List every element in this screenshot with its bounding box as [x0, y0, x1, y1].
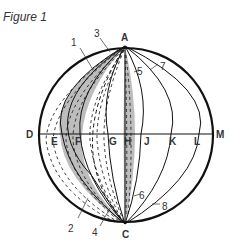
label-C: C [122, 229, 129, 240]
label-K: K [169, 136, 177, 147]
stereonet-diagram: A C D M E F G H J K L 1 2 3 4 5 6 7 8 [0, 0, 238, 245]
callout-3: 3 [94, 28, 100, 39]
callout-6: 6 [139, 190, 145, 201]
label-E: E [51, 136, 58, 147]
callout-4: 4 [92, 227, 98, 238]
label-G: G [109, 136, 117, 147]
label-D: D [26, 129, 33, 140]
callout-1: 1 [71, 37, 77, 48]
callout-7: 7 [160, 61, 166, 72]
label-L: L [194, 136, 200, 147]
label-M: M [216, 129, 224, 140]
label-J: J [144, 136, 150, 147]
label-A: A [121, 32, 128, 43]
shaded-bands [59, 46, 135, 224]
label-F: F [75, 136, 81, 147]
callout-8: 8 [162, 201, 168, 212]
callout-5: 5 [137, 66, 143, 77]
label-H: H [124, 136, 131, 147]
callout-2: 2 [68, 223, 74, 234]
